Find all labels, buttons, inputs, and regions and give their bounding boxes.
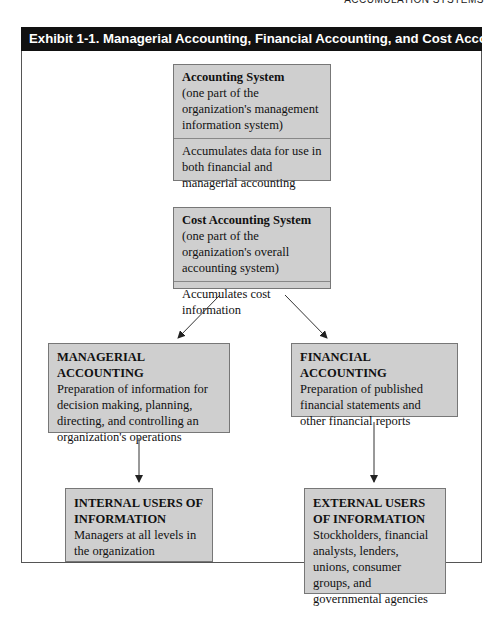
node-description: Preparation of information for decision … (57, 381, 221, 445)
node-internal-users: INTERNAL USERS OF INFORMATION Managers a… (65, 488, 213, 562)
node-description: Stockholders, financial analysts, lender… (313, 527, 437, 607)
node-subtitle: (one part of the organization's overall … (182, 228, 322, 276)
running-header: ACCUMULATION SYSTEMS (344, 0, 484, 5)
node-financial-accounting: FINANCIAL ACCOUNTING Preparation of publ… (291, 343, 458, 417)
node-description: Accumulates cost information (182, 286, 322, 318)
node-title: INTERNAL USERS OF INFORMATION (74, 495, 204, 527)
node-description: Preparation of published financial state… (300, 381, 449, 429)
node-external-users: EXTERNAL USERS OF INFORMATION Stockholde… (304, 488, 446, 594)
node-cost-accounting-system: Cost Accounting System (one part of the … (173, 207, 331, 289)
node-accounting-system: Accounting System (one part of the organ… (173, 64, 331, 181)
node-title: MANAGERIAL ACCOUNTING (57, 349, 221, 381)
node-description: Accumulates data for use in both financi… (182, 143, 322, 191)
node-title: Cost Accounting System (182, 212, 322, 228)
exhibit-title: Exhibit 1-1. Managerial Accounting, Fina… (21, 27, 482, 51)
node-managerial-accounting: MANAGERIAL ACCOUNTING Preparation of inf… (48, 343, 230, 433)
node-subtitle: (one part of the organization's manageme… (182, 85, 322, 133)
node-description: Managers at all levels in the organizati… (74, 527, 204, 559)
node-title: Accounting System (182, 69, 322, 85)
node-title: FINANCIAL ACCOUNTING (300, 349, 449, 381)
node-title: EXTERNAL USERS OF INFORMATION (313, 495, 437, 527)
